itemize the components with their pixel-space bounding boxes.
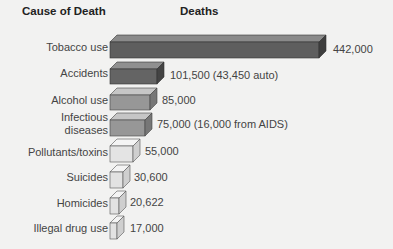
value-accidents: 101,500 (43,450 auto) <box>170 69 278 81</box>
bar-homicides <box>110 191 126 214</box>
label-infectious: Infectious <box>61 111 108 123</box>
bar-accidents <box>110 62 164 84</box>
value-infectious-diseases: 75,000 (16,000 from AIDS) <box>157 118 288 130</box>
bar-illegal-drug-use <box>110 216 124 239</box>
bar-suicides <box>110 165 130 188</box>
bar-pollutants-toxins <box>110 139 140 162</box>
value-tobacco-use: 442,000 <box>333 43 373 55</box>
bar-tobacco-use <box>110 35 326 58</box>
value-alcohol-use: 85,000 <box>162 94 196 106</box>
label-suicides: Suicides <box>66 171 108 183</box>
label-alcohol-use: Alcohol use <box>51 94 108 106</box>
label-homicides: Homicides <box>57 197 108 209</box>
bar-alcohol-use <box>110 88 157 110</box>
label-tobacco-use: Tobacco use <box>46 41 108 53</box>
bar-infectious-diseases <box>110 113 152 136</box>
label-pollutants-toxins: Pollutants/toxins <box>28 146 108 158</box>
value-homicides: 20,622 <box>130 196 164 208</box>
label-accidents: Accidents <box>60 67 108 79</box>
label-illegal-drug-use: Illegal drug use <box>33 222 108 234</box>
value-suicides: 30,600 <box>134 171 168 183</box>
label-diseases: diseases <box>65 124 108 136</box>
value-illegal-drug-use: 17,000 <box>130 222 164 234</box>
value-pollutants-toxins: 55,000 <box>145 145 179 157</box>
